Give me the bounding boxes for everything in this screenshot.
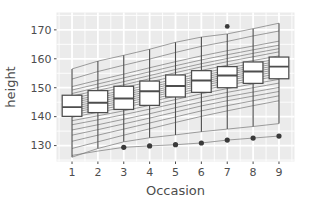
x-tick-label: 3 — [120, 166, 127, 179]
y-tick-label: 170 — [31, 24, 52, 37]
x-axis-title: Occasion — [146, 183, 205, 198]
box-iqr — [269, 57, 289, 79]
boxplot-chart: 130140150160170 123456789 height Occasio… — [0, 0, 310, 210]
x-tick-label: 8 — [250, 166, 257, 179]
y-axis: 130140150160170 — [31, 24, 57, 153]
y-tick-label: 150 — [31, 82, 52, 95]
chart-svg: 130140150160170 123456789 height Occasio… — [0, 0, 310, 210]
data-point — [147, 143, 152, 148]
data-point — [225, 137, 230, 142]
x-tick-label: 2 — [94, 166, 101, 179]
y-tick-label: 160 — [31, 53, 52, 66]
data-point — [121, 145, 126, 150]
box-iqr — [62, 95, 82, 116]
box-iqr — [140, 81, 160, 105]
box-iqr — [243, 62, 263, 83]
x-tick-label: 6 — [198, 166, 205, 179]
outlier-point — [225, 24, 230, 29]
y-tick-label: 140 — [31, 110, 52, 123]
x-tick-label: 1 — [69, 166, 76, 179]
x-tick-label: 4 — [146, 166, 153, 179]
x-axis: 123456789 — [69, 162, 283, 179]
y-axis-title: height — [3, 66, 18, 107]
box-iqr — [192, 71, 212, 93]
data-point — [173, 142, 178, 147]
x-tick-label: 7 — [224, 166, 231, 179]
data-point — [199, 140, 204, 145]
box-iqr — [88, 91, 108, 113]
x-tick-label: 9 — [275, 166, 282, 179]
x-tick-label: 5 — [172, 166, 179, 179]
y-tick-label: 130 — [31, 139, 52, 152]
data-point — [276, 133, 281, 138]
box-iqr — [217, 67, 237, 88]
data-point — [251, 135, 256, 140]
